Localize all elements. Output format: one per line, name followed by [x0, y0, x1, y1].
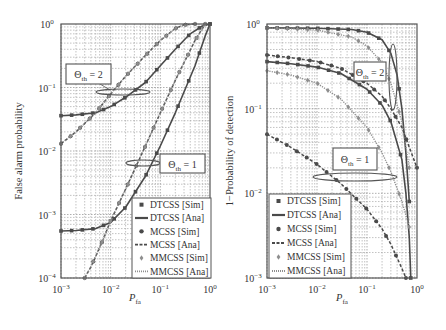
x-axis-label: Pfa — [128, 292, 142, 306]
y-tick-label: 10−1 — [244, 103, 262, 115]
theta2-annotation: Θth = 2 — [354, 62, 386, 81]
legend-label: MMCSS [Sim] — [287, 252, 345, 262]
y-tick-label: 10−4 — [38, 272, 56, 284]
legend-label: MMCSS [Ana] — [150, 267, 208, 277]
y-tick-label: 10−3 — [244, 272, 262, 284]
y-tick-label: 100 — [246, 18, 260, 30]
figure: 10−310−210−110010010−110−210−310−4Θth = … — [0, 0, 446, 330]
x-tick-label: 10−1 — [152, 283, 170, 295]
legend-label: MMCSS [Ana] — [287, 266, 345, 276]
legend-label: DTCSS [Sim] — [287, 196, 341, 206]
y-tick-label: 10−2 — [244, 187, 262, 199]
legend-item: DTCSS [Sim] — [140, 200, 204, 210]
legend-item: MMCSS [Sim] — [140, 253, 208, 263]
legend-left: DTCSS [Sim]DTCSS [Ana]MCSS [Sim]MCSS [An… — [132, 198, 211, 278]
y-tick-label: 10−1 — [38, 82, 56, 94]
circle-marker-icon — [276, 227, 280, 231]
x-tick-label: 10−1 — [358, 283, 376, 295]
y-tick-label: 10−3 — [38, 209, 56, 221]
legend-item: DTCSS [Sim] — [277, 196, 341, 206]
y-tick-label: 10−2 — [38, 145, 56, 157]
x-tick-label: 10−3 — [52, 283, 70, 295]
legend-label: DTCSS [Ana] — [287, 210, 341, 220]
theta1-annotation: Θth = 1 — [160, 154, 205, 173]
left-plot-false-alarm: 10−310−210−110010010−110−210−310−4Θth = … — [13, 18, 217, 306]
x-tick-label: 10−2 — [308, 283, 326, 295]
x-tick-label: 10−3 — [258, 283, 276, 295]
y-axis-label: 1−Probability of detection — [224, 95, 235, 206]
y-axis-label: False alarm probability — [13, 102, 24, 200]
x-tick-label: 100 — [203, 283, 217, 295]
legend-label: MCSS [Sim] — [150, 227, 199, 237]
legend-label: MCSS [Ana] — [287, 238, 337, 248]
legend-label: DTCSS [Sim] — [150, 200, 204, 210]
circle-marker-icon — [139, 229, 143, 233]
legend-label: MCSS [Ana] — [150, 240, 200, 250]
theta1-annotation: Θth = 1 — [333, 148, 377, 170]
legend-label: MCSS [Sim] — [287, 224, 336, 234]
square-marker-icon — [140, 203, 144, 207]
x-axis-label: Pfa — [335, 292, 349, 306]
chart-canvas: 10−310−210−110010010−110−210−310−4Θth = … — [0, 0, 446, 330]
legend-label: DTCSS [Ana] — [150, 213, 204, 223]
y-tick-label: 100 — [40, 18, 54, 30]
legend-right: DTCSS [Sim]DTCSS [Ana]MCSS [Sim]MCSS [An… — [269, 194, 351, 278]
legend-label: MMCSS [Sim] — [150, 253, 208, 263]
x-tick-label: 10−2 — [102, 283, 120, 295]
x-tick-label: 100 — [410, 283, 424, 295]
right-plot-missed-detection: 10−310−210−110010010−110−210−3Θth = 2Θth… — [224, 18, 424, 306]
legend-item: MMCSS [Sim] — [277, 252, 345, 262]
theta2-annotation: Θth = 2 — [66, 64, 111, 84]
square-marker-icon — [277, 199, 281, 203]
